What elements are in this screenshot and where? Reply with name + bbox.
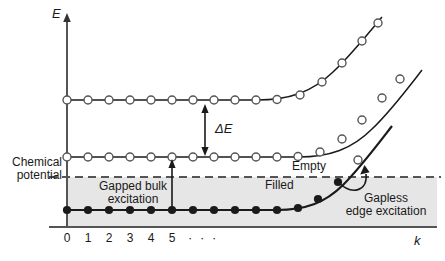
edge-excitation-target-marker: [354, 156, 362, 164]
middle-band-markers: [63, 75, 404, 161]
gapless-edge-excitation-label-line2: edge excitation: [333, 205, 439, 218]
gapped-bulk-excitation-label-line2: excitation: [83, 193, 183, 206]
filled-region-label: Filled: [265, 179, 294, 192]
gap-arrow-head-down: [201, 147, 208, 156]
gap-energy-label: ΔE: [215, 122, 232, 137]
empty-region-label: Empty: [292, 160, 326, 173]
upper-band-curve: [67, 17, 382, 100]
x-tick-label-1: 1: [78, 232, 98, 245]
middle-band-curve: [67, 70, 422, 157]
x-tick-label-3: 3: [120, 232, 140, 245]
gap-arrow-head-up: [201, 104, 208, 113]
x-tick-ellipsis: · · ·: [188, 231, 218, 246]
x-axis-label: k: [414, 234, 421, 249]
edge-excitation-arrow-head: [360, 165, 369, 175]
x-tick-label-4: 4: [141, 232, 161, 245]
y-axis-label: E: [52, 7, 61, 22]
x-tick-label-2: 2: [99, 232, 119, 245]
chemical-potential-label-line2: potential: [0, 169, 62, 182]
y-axis-arrowhead: [63, 13, 71, 22]
x-tick-label-0: 0: [57, 232, 77, 245]
upper-band-markers: [63, 19, 382, 104]
x-tick-label-5: 5: [162, 232, 182, 245]
figure-container: E k Chemical potential 0 1 2 3 4 5 · · ·…: [0, 0, 445, 261]
